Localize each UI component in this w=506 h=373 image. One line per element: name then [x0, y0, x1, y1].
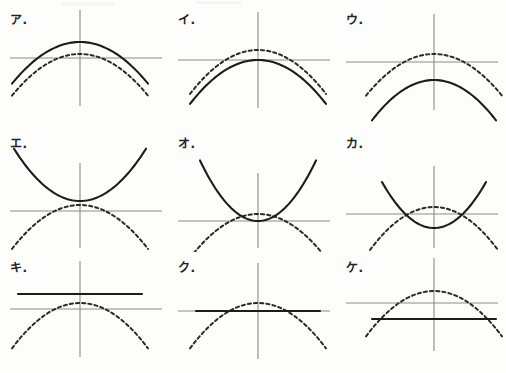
- panel-plot: [2, 128, 170, 252]
- panel-6: カ.: [338, 128, 506, 252]
- panel-9: ケ.: [338, 252, 506, 373]
- panel-plot: [170, 252, 338, 373]
- panel-2: イ.: [170, 4, 338, 128]
- panel-plot: [338, 252, 506, 373]
- panel-7: キ.: [2, 252, 170, 373]
- panel-3: ウ.: [338, 4, 506, 128]
- panel-1: ア.: [2, 4, 170, 128]
- panel-plot: [2, 4, 170, 128]
- panel-plot: [2, 252, 170, 373]
- panel-plot: [170, 128, 338, 252]
- worksheet-sheet: ア.イ.ウ.エ.オ.カ.キ.ク.ケ.: [0, 0, 506, 373]
- panel-plot: [338, 4, 506, 128]
- panel-5: オ.: [170, 128, 338, 252]
- panel-8: ク.: [170, 252, 338, 373]
- panel-plot: [338, 128, 506, 252]
- panel-4: エ.: [2, 128, 170, 252]
- panel-plot: [170, 4, 338, 128]
